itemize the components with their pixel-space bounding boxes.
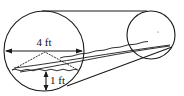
diameter-arrow-right <box>76 49 83 54</box>
depth-label: 1 ft <box>50 74 65 86</box>
depth-arrow-up <box>44 71 49 77</box>
water-surface-near <box>12 69 78 71</box>
diameter-label: 4 ft <box>37 36 52 48</box>
cylinder-tank-diagram: 4 ft 1 ft <box>0 0 184 96</box>
depth-arrow-down <box>44 85 49 91</box>
tank-bottom-edge <box>67 47 172 86</box>
far-end-dot <box>157 31 158 32</box>
diameter-arrow-left <box>5 49 12 54</box>
